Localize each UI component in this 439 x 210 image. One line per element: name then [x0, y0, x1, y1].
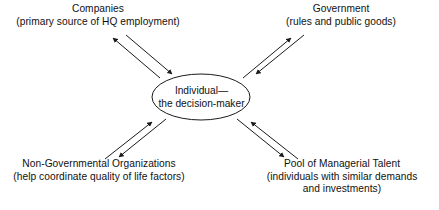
- node-pool-of-managerial-talent: Pool of Managerial Talent (individuals w…: [247, 158, 437, 196]
- node-government-title: Government: [247, 3, 435, 16]
- node-non-governmental-organizations: Non-Governmental Organizations (help coo…: [1, 158, 197, 183]
- arrow-to-talent: [237, 119, 284, 157]
- arrow-to-individual-from-ngo: [105, 122, 152, 159]
- diagram-canvas: Individual— the decision-maker Companies…: [0, 0, 439, 210]
- arrow-to-government: [243, 38, 291, 78]
- node-companies-detail: (primary source of HQ employment): [4, 16, 192, 29]
- arrow-to-individual-from-talent: [251, 122, 298, 159]
- node-companies: Companies (primary source of HQ employme…: [4, 3, 192, 28]
- node-talent-detail-line2: and investments): [247, 183, 437, 196]
- node-companies-title: Companies: [4, 3, 192, 16]
- individual-label: Individual— the decision-maker: [152, 74, 251, 121]
- connector-companies-individual: [113, 35, 172, 78]
- node-ngo-detail: (help coordinate quality of life factors…: [1, 171, 197, 184]
- connector-ngo-individual: [105, 119, 166, 159]
- individual-label-line2: the decision-maker: [158, 98, 244, 111]
- node-ngo-title: Non-Governmental Organizations: [1, 158, 197, 171]
- individual-label-line1: Individual—: [175, 85, 228, 98]
- node-talent-title: Pool of Managerial Talent: [247, 158, 437, 171]
- node-individual: Individual— the decision-maker: [152, 74, 251, 121]
- connector-government-individual: [243, 35, 304, 78]
- node-talent-detail-line1: (individuals with similar demands: [247, 171, 437, 184]
- arrow-to-ngo: [119, 119, 166, 157]
- arrow-to-individual-from-government: [256, 35, 304, 74]
- node-government: Government (rules and public goods): [247, 3, 435, 28]
- connector-talent-individual: [237, 119, 298, 159]
- node-government-detail: (rules and public goods): [247, 16, 435, 29]
